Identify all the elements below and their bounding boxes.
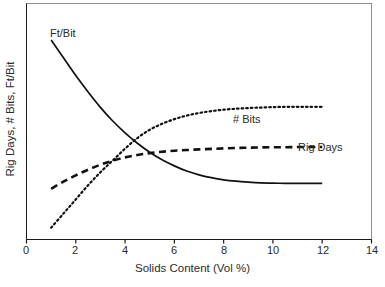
x-tick-label: 6 <box>162 244 186 256</box>
chart-figure: 0 2 4 6 8 10 12 14 Solids Content (Vol %… <box>0 0 385 287</box>
series-label-rig-days: Rig Days <box>298 141 343 153</box>
series-label-ft-bit: Ft/Bit <box>50 27 76 39</box>
x-axis-title: Solids Content (Vol %) <box>0 262 385 274</box>
y-axis-title: Rig Days, # Bits, Ft/Bit <box>4 49 16 189</box>
x-tick-label: 2 <box>63 244 87 256</box>
x-tick-label: 0 <box>14 244 38 256</box>
x-tick-label: 12 <box>311 244 335 256</box>
x-tick-label: 10 <box>261 244 285 256</box>
x-tick-label: 4 <box>113 244 137 256</box>
series-lines <box>51 40 322 228</box>
series-path-ft-bit <box>51 40 322 183</box>
x-tick-label: 8 <box>212 244 236 256</box>
x-tick-label: 14 <box>360 244 384 256</box>
series-path-bits <box>51 107 322 228</box>
x-axis-tick-marks <box>27 240 372 244</box>
series-label-num-bits: # Bits <box>233 113 261 125</box>
